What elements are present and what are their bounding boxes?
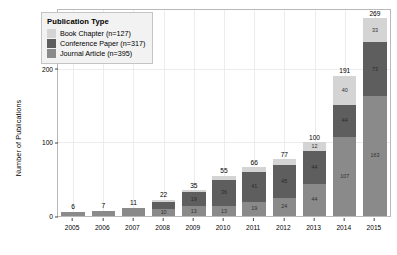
bar-total-label: 35: [190, 182, 197, 189]
bar-segment-value-label: 45: [281, 179, 287, 184]
bar-segment-value-label: 19: [251, 206, 257, 211]
bar-total-label: 191: [339, 67, 350, 74]
bar-total-label: 55: [220, 167, 227, 174]
legend-title: Publication Type: [47, 17, 145, 26]
x-axis-tick-labels: 2005200620072008200920102011201220132014…: [57, 218, 391, 238]
y-axis-tick-label: 100: [42, 139, 58, 146]
x-axis-tick-label: 2008: [155, 224, 170, 231]
bar-segment-value-label: 13: [221, 209, 227, 214]
bar-total-label: 100: [309, 134, 320, 141]
legend-item-label: Journal Article (n=395): [60, 49, 132, 58]
x-axis-tick-label: 2010: [216, 224, 231, 231]
bar-total-label: 22: [160, 191, 167, 198]
bar-segment-value-label: 107: [340, 174, 349, 179]
bar-total-label: 6: [71, 203, 75, 210]
bar-segment-value-label: 19: [191, 197, 197, 202]
bar-column[interactable]: 3373163269: [363, 18, 387, 216]
bar-column[interactable]: 6: [61, 212, 85, 216]
bar-segment[interactable]: 45: [273, 165, 297, 198]
legend: Publication Type Book Chapter (n=127)Con…: [41, 12, 153, 64]
x-axis-tick-label: 2011: [246, 224, 260, 231]
bar-segment[interactable]: 44: [303, 184, 327, 216]
x-axis-tick-label: 2006: [95, 224, 110, 231]
bar-total-label: 66: [251, 159, 258, 166]
bar-column[interactable]: 411966: [242, 167, 266, 216]
bar-segment-value-label: 44: [312, 165, 318, 170]
bar-segment-value-label: 73: [372, 67, 378, 72]
legend-item[interactable]: Book Chapter (n=127): [47, 29, 145, 38]
bar-column[interactable]: 1022: [152, 200, 176, 216]
bar-segment[interactable]: 10: [152, 209, 176, 216]
x-axis-tick-label: 2012: [276, 224, 291, 231]
bar-column[interactable]: 7: [92, 211, 116, 216]
bar-segment[interactable]: 13: [212, 206, 236, 216]
bar-segment[interactable]: 44: [333, 105, 357, 137]
bar-column[interactable]: 124444100: [303, 142, 327, 216]
bar-segment[interactable]: 24: [273, 198, 297, 216]
legend-color-swatch: [47, 49, 56, 58]
legend-items: Book Chapter (n=127)Conference Paper (n=…: [47, 29, 145, 58]
bar-segment[interactable]: 13: [182, 206, 206, 216]
x-axis-tick-label: 2014: [336, 224, 351, 231]
x-axis-tick-label: 2013: [306, 224, 321, 231]
bar-column[interactable]: 191335: [182, 190, 206, 216]
bar-segment[interactable]: 19: [242, 202, 266, 216]
bar-segment-value-label: 36: [221, 190, 227, 195]
bar-total-label: 7: [101, 202, 105, 209]
bar-column[interactable]: 11: [122, 208, 146, 216]
bar-segment[interactable]: 33: [363, 18, 387, 42]
x-axis-tick-label: 2007: [125, 224, 140, 231]
bar-segment-value-label: 40: [342, 88, 348, 93]
legend-item[interactable]: Conference Paper (n=317): [47, 39, 145, 48]
legend-item[interactable]: Journal Article (n=395): [47, 49, 145, 58]
bar-segment[interactable]: 44: [303, 151, 327, 183]
bar-segment-value-label: 44: [342, 118, 348, 123]
legend-item-label: Conference Paper (n=317): [60, 39, 145, 48]
x-axis-tick-label: 2015: [367, 224, 382, 231]
bar-segment-value-label: 13: [191, 209, 197, 214]
bar-segment-value-label: 24: [281, 204, 287, 209]
bar-segment[interactable]: 163: [363, 96, 387, 216]
bar-segment-value-label: 33: [372, 28, 378, 33]
bar-segment[interactable]: 12: [303, 142, 327, 151]
x-axis-tick-label: 2009: [185, 224, 200, 231]
bar-segment-value-label: 44: [312, 197, 318, 202]
bar-segment[interactable]: [152, 202, 176, 209]
bar-segment[interactable]: [122, 208, 146, 216]
publication-type-stacked-bar-chart: Number of Publications 67111022191335361…: [0, 0, 397, 255]
bar-segment-value-label: 41: [251, 184, 257, 189]
legend-color-swatch: [47, 29, 56, 38]
bar-segment[interactable]: 36: [212, 180, 236, 206]
bar-segment[interactable]: 41: [242, 172, 266, 202]
bar-segment[interactable]: 107: [333, 137, 357, 216]
bar-total-label: 269: [369, 10, 380, 17]
legend-item-label: Book Chapter (n=127): [60, 29, 131, 38]
bar-total-label: 77: [281, 151, 288, 158]
bar-segment-value-label: 10: [161, 210, 167, 215]
y-axis-title-text: Number of Publications: [14, 68, 23, 208]
legend-color-swatch: [47, 39, 56, 48]
y-axis-tick-label: 200: [42, 65, 58, 72]
bar-segment[interactable]: 73: [363, 42, 387, 96]
bar-column[interactable]: 452477: [273, 159, 297, 216]
y-axis-title: Number of Publications: [14, 0, 26, 68]
bar-segment[interactable]: [61, 212, 85, 216]
bar-segment[interactable]: [92, 211, 116, 216]
bar-segment-value-label: 12: [312, 144, 318, 149]
bar-column[interactable]: 4044107191: [333, 75, 357, 216]
bar-column[interactable]: 361355: [212, 176, 236, 216]
x-axis-tick-label: 2005: [65, 224, 80, 231]
bar-segment[interactable]: 19: [182, 192, 206, 206]
bar-total-label: 11: [130, 199, 137, 206]
bar-segment-value-label: 163: [370, 153, 379, 158]
bar-segment[interactable]: 40: [333, 76, 357, 105]
